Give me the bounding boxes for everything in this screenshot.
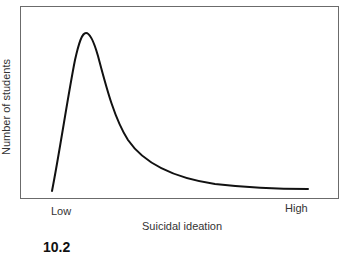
y-axis-label: Number of students [0,52,14,162]
x-axis-label: Suicidal ideation [142,220,222,232]
x-tick-high: High [285,202,308,214]
distribution-curve [52,33,308,191]
x-tick-low: Low [51,205,71,217]
figure-number: 10.2 [43,239,70,255]
